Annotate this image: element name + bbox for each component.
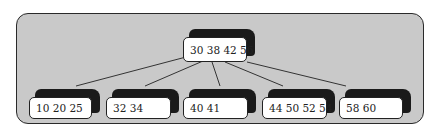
- edge-root-child-5: [247, 62, 346, 86]
- child-node-5: 58 60: [339, 97, 403, 119]
- root-node-keys: 30 38 42 56: [183, 37, 247, 62]
- child-node-3: 40 41: [183, 97, 248, 119]
- child-node-keys: 44 50 52 54: [262, 97, 327, 119]
- child-node-2: 32 34: [106, 97, 171, 119]
- child-node-keys: 58 60: [339, 97, 403, 119]
- child-node-4: 44 50 52 54: [262, 97, 327, 119]
- child-node-keys: 32 34: [106, 97, 171, 119]
- child-node-1: 10 20 25: [29, 97, 92, 119]
- child-node-keys: 10 20 25: [29, 97, 92, 119]
- edge-root-child-4: [225, 62, 283, 86]
- root-node: 30 38 42 56: [183, 37, 247, 62]
- child-node-keys: 40 41: [183, 97, 248, 119]
- edge-root-child-1: [76, 57, 186, 86]
- edge-root-child-2: [145, 61, 203, 86]
- edge-root-child-3: [212, 62, 220, 86]
